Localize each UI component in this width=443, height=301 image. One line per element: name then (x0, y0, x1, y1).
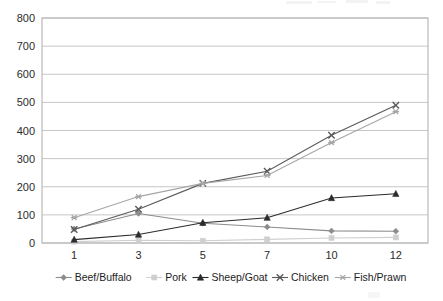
y-axis-tick-label: 700 (17, 40, 35, 52)
data-point-marker-diamond (61, 275, 67, 281)
scan-artifact (368, 292, 380, 298)
x-axis-tick-labels: 13571012 (71, 249, 402, 261)
legend-item-fish-prawn[interactable]: Fish/Prawn (335, 271, 407, 283)
y-axis-tick-label: 100 (17, 209, 35, 221)
data-point-marker-diamond (329, 228, 335, 234)
series-line (74, 213, 396, 231)
legend-item-beef-buffalo[interactable]: Beef/Buffalo (56, 271, 132, 283)
y-axis-tick-label: 400 (17, 125, 35, 137)
legend-label: Pork (165, 271, 187, 283)
y-axis-tick-label: 0 (29, 237, 35, 249)
scan-artifact (286, 1, 312, 4)
legend-item-pork[interactable]: Pork (146, 271, 187, 283)
data-point-marker-asterisk (340, 275, 347, 280)
legend-label: Beef/Buffalo (75, 271, 132, 283)
series-fish-prawn (71, 109, 399, 220)
data-point-marker-square (393, 235, 398, 240)
series-line (74, 237, 396, 241)
y-axis-tick-label: 800 (17, 12, 35, 24)
data-point-marker-square (329, 235, 334, 240)
data-point-marker-asterisk (328, 140, 335, 145)
y-axis-tick-labels: 0100200300400500600700800 (17, 12, 35, 249)
legend-label: Chicken (291, 271, 329, 283)
series-line (74, 105, 396, 229)
data-series-layer (71, 102, 399, 244)
y-axis-tick-label: 200 (17, 181, 35, 193)
data-point-marker-square (200, 238, 205, 243)
x-axis-tick-label: 12 (390, 249, 402, 261)
scan-artifact (318, 1, 336, 3)
series-chicken (71, 102, 399, 233)
data-point-marker-diamond (393, 228, 399, 234)
series-line (74, 194, 396, 240)
legend-item-sheep-goat[interactable]: Sheep/Goat (192, 271, 267, 283)
x-axis-tick-label: 7 (264, 249, 270, 261)
data-point-marker-cross (328, 132, 334, 138)
data-point-marker-square (265, 237, 270, 242)
scan-artifact (376, 1, 390, 4)
y-axis-tick-label: 300 (17, 153, 35, 165)
data-point-marker-asterisk (393, 109, 400, 114)
chart-legend: Beef/BuffaloPorkSheep/GoatChickenFish/Pr… (56, 271, 407, 283)
x-axis-tick-label: 3 (135, 249, 141, 261)
data-point-marker-asterisk (71, 215, 78, 220)
x-axis-tick-label: 10 (325, 249, 337, 261)
chart-container: 0100200300400500600700800 13571012 Beef/… (0, 0, 443, 301)
line-chart: 0100200300400500600700800 13571012 Beef/… (0, 0, 443, 301)
y-axis-tick-label: 500 (17, 96, 35, 108)
data-point-marker-square (152, 275, 157, 280)
data-point-marker-asterisk (135, 194, 142, 199)
x-axis-tick-label: 5 (200, 249, 206, 261)
data-point-marker-asterisk (264, 173, 271, 178)
data-point-marker-cross (393, 102, 399, 108)
y-axis-tick-label: 600 (17, 68, 35, 80)
data-point-marker-diamond (264, 224, 270, 230)
series-sheep-goat (71, 190, 399, 242)
scan-artifact (346, 0, 368, 3)
data-point-marker-square (136, 238, 141, 243)
legend-item-chicken[interactable]: Chicken (272, 271, 329, 283)
x-axis-tick-label: 1 (71, 249, 77, 261)
series-beef-buffalo (71, 211, 398, 235)
legend-label: Fish/Prawn (354, 271, 407, 283)
data-point-marker-asterisk (200, 181, 207, 186)
legend-label: Sheep/Goat (211, 271, 267, 283)
